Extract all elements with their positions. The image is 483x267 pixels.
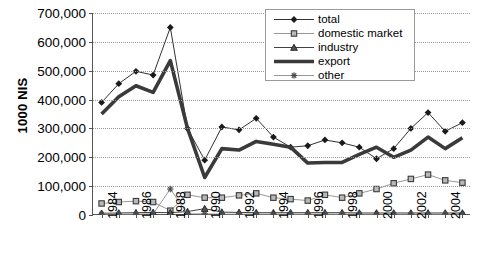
x-tick-label: 2004	[449, 191, 463, 219]
x-tick-label: 2000	[381, 191, 395, 219]
x-tick-mark	[239, 214, 240, 218]
legend: totaldomestic marketindustryexportother	[265, 9, 415, 81]
x-tick-label: 1984	[106, 191, 120, 219]
y-tick-label: 400,000	[37, 92, 86, 107]
y-tick-mark	[89, 71, 93, 72]
data-point	[339, 195, 344, 200]
data-point	[322, 137, 329, 144]
y-tick-label: 300,000	[37, 121, 86, 136]
x-tick-mark	[377, 214, 378, 218]
legend-label: total	[318, 13, 340, 26]
data-point	[291, 72, 297, 78]
y-tick-label: 700,000	[37, 6, 86, 21]
legend-swatch-icon	[266, 27, 318, 40]
x-tick-mark	[136, 214, 137, 218]
y-tick-mark	[89, 42, 93, 43]
data-point	[391, 181, 396, 186]
data-point	[99, 201, 104, 206]
legend-swatch-icon	[266, 55, 318, 68]
data-point	[167, 24, 174, 31]
x-tick-label: 1992	[243, 191, 257, 219]
data-point	[236, 193, 241, 198]
x-tick-mark	[411, 214, 412, 218]
y-tick-label: 500,000	[37, 63, 86, 78]
data-point	[202, 195, 207, 200]
x-tick-label: 1986	[140, 191, 154, 219]
data-point	[291, 16, 298, 23]
gridline	[93, 128, 470, 129]
data-point	[150, 72, 157, 79]
x-tick-label: 1990	[209, 191, 223, 219]
data-point	[304, 142, 311, 149]
x-tick-label: 1988	[174, 191, 188, 219]
data-point	[460, 180, 465, 185]
legend-item-domestic-market: domestic market	[266, 27, 414, 40]
x-tick-label: 2002	[415, 191, 429, 219]
data-point	[443, 178, 448, 183]
gridline	[93, 157, 470, 158]
data-point	[425, 172, 430, 177]
data-point	[356, 144, 363, 151]
legend-key	[266, 13, 318, 26]
x-tick-mark	[445, 214, 446, 218]
y-tick-mark	[89, 128, 93, 129]
x-tick-mark	[308, 214, 309, 218]
y-tick-label: 100,000	[37, 179, 86, 194]
gridline	[93, 100, 470, 101]
legend-key	[266, 55, 318, 68]
x-tick-label: 1996	[312, 191, 326, 219]
legend-label: industry	[318, 41, 358, 54]
x-tick-mark	[273, 214, 274, 218]
gridline	[93, 186, 470, 187]
legend-label: other	[318, 69, 344, 82]
legend-label: export	[318, 55, 350, 68]
legend-item-export: export	[266, 55, 414, 68]
y-tick-mark	[89, 215, 93, 216]
y-tick-mark	[89, 13, 93, 14]
x-tick-label: 1998	[346, 191, 360, 219]
chart-figure: 1000 NIS 0100,000200,000300,000400,00050…	[0, 0, 483, 267]
y-tick-mark	[89, 186, 93, 187]
y-axis-title: 1000 NIS	[15, 61, 30, 151]
legend-key	[266, 41, 318, 54]
data-point	[291, 31, 296, 36]
legend-item-industry: industry	[266, 41, 414, 54]
data-point	[305, 198, 310, 203]
x-tick-mark	[342, 214, 343, 218]
y-tick-mark	[89, 100, 93, 101]
legend-key	[266, 27, 318, 40]
legend-swatch-icon	[266, 13, 318, 26]
data-point	[133, 198, 138, 203]
x-tick-mark	[102, 214, 103, 218]
data-point	[339, 139, 346, 146]
legend-item-total: total	[266, 13, 414, 26]
legend-swatch-icon	[266, 41, 318, 54]
legend-label: domestic market	[318, 27, 402, 40]
data-point	[201, 205, 208, 211]
legend-swatch-icon	[266, 69, 318, 82]
x-tick-mark	[205, 214, 206, 218]
y-tick-label: 600,000	[37, 34, 86, 49]
data-point	[271, 195, 276, 200]
y-tick-label: 0	[78, 208, 86, 223]
y-tick-label: 200,000	[37, 150, 86, 165]
y-tick-mark	[89, 157, 93, 158]
legend-item-other: other	[266, 69, 414, 82]
data-point	[408, 176, 413, 181]
x-tick-label: 1994	[277, 191, 291, 219]
data-point	[459, 119, 466, 126]
legend-key	[266, 69, 318, 82]
x-tick-mark	[170, 214, 171, 218]
